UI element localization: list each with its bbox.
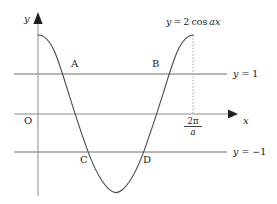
curve-equation-equals: = [171, 16, 183, 27]
graph-canvas [0, 0, 277, 204]
x-tick-numerator: 2π [184, 117, 202, 126]
point-label-a: A [71, 59, 78, 69]
curve-equation-function: cos [189, 16, 207, 27]
x-axis-arrowhead [228, 110, 238, 119]
cosine-graph-figure: y x O y=2cosax yy = 1= 1 yy = −1= −1 2π … [0, 0, 277, 204]
point-label-c: C [80, 155, 88, 165]
x-tick-denominator: a [184, 128, 202, 137]
origin-label: O [24, 116, 32, 126]
line-label-lower-rest: = −1 [238, 146, 266, 157]
y-axis-arrowhead [33, 12, 42, 24]
x-axis-label: x [243, 116, 249, 126]
y-axis-label: y [24, 14, 30, 24]
x-tick-label-period: 2π a [184, 117, 202, 137]
curve-equation-argument: ax [207, 16, 220, 27]
line-label-upper-rest: = 1 [238, 68, 258, 79]
curve-equation-label: y=2cosax [166, 17, 220, 27]
line-label-y-equals-minus-1: yy = −1= −1 [233, 147, 266, 157]
point-label-d: D [143, 155, 151, 165]
point-label-b: B [152, 59, 159, 69]
line-label-y-equals-1: yy = 1= 1 [233, 69, 258, 79]
